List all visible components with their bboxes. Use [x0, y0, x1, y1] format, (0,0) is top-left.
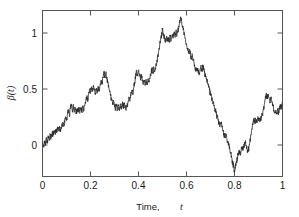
- figure-container: 1 0.5 0 0 0.2 0.4 0.6 0.8 1 Time, t β(t): [0, 0, 299, 217]
- y-tick-label-0.5: 0.5: [23, 84, 37, 95]
- x-axis-title-text: Time,: [136, 201, 159, 212]
- x-tick-label-0.8: 0.8: [228, 180, 242, 191]
- y-axis-title-text: β(t): [5, 85, 17, 101]
- y-axis-ticks: [43, 33, 283, 145]
- brownian-path: [43, 17, 283, 172]
- y-tick-label-0: 0: [31, 140, 37, 151]
- x-tick-label-0: 0: [40, 180, 46, 191]
- plot-frame: [43, 11, 283, 177]
- x-axis-ticks: [43, 11, 283, 177]
- brownian-motion-chart: 1 0.5 0 0 0.2 0.4 0.6 0.8 1 Time, t β(t): [0, 0, 299, 217]
- y-tick-label-1: 1: [31, 28, 37, 39]
- x-tick-label-0.2: 0.2: [84, 180, 98, 191]
- x-axis-title-symbol: t: [180, 201, 183, 212]
- x-tick-label-1: 1: [280, 180, 286, 191]
- x-axis-title: Time, t: [136, 201, 183, 212]
- y-axis-title: β(t): [5, 85, 17, 101]
- x-tick-label-0.4: 0.4: [132, 180, 146, 191]
- x-tick-label-0.6: 0.6: [180, 180, 194, 191]
